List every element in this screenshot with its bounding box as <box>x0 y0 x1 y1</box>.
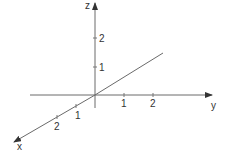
z-axis-label: z <box>85 0 90 11</box>
x-tick-label-2: 2 <box>54 121 60 132</box>
y-tick-label-2: 2 <box>150 98 156 109</box>
plotted-line <box>95 53 163 95</box>
z-tick-label-2: 2 <box>99 33 105 44</box>
y-tick-label-1: 1 <box>121 98 127 109</box>
x-axis-label: x <box>17 141 22 150</box>
x-axis <box>14 95 95 142</box>
z-tick-label-1: 1 <box>99 62 105 73</box>
x-tick-label-1: 1 <box>75 110 81 121</box>
coordinate-diagram: 1 2 z 1 2 y 1 2 x <box>0 0 230 150</box>
y-axis-label: y <box>211 100 216 111</box>
